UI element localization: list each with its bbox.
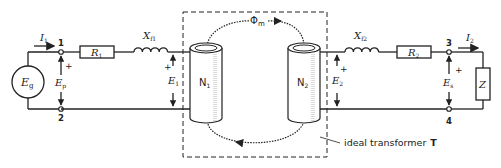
voltage-es: + Es (442, 56, 463, 105)
resistor-r2: R2 (397, 46, 431, 59)
svg-text:E2: E2 (331, 75, 343, 87)
circuit-svg: Eg I1 1 2 + Ep R1 Xf1 + E1 (0, 0, 501, 168)
resistor-r1: R1 (80, 46, 114, 59)
load-z: Z (476, 68, 490, 100)
ideal-transformer-caption: ideal transformerT (320, 137, 437, 148)
terminal-1 (59, 50, 64, 55)
terminal-4 (447, 107, 452, 112)
svg-text:Es: Es (442, 77, 453, 89)
svg-text:+: + (164, 62, 172, 72)
svg-text:1: 1 (58, 38, 64, 48)
voltage-e1: + E1 (164, 55, 179, 106)
svg-text:R1: R1 (90, 47, 102, 59)
terminal-3 (447, 50, 452, 55)
svg-text:Xf1: Xf1 (142, 30, 156, 42)
current-i2: I2 (458, 32, 478, 48)
svg-text:Z: Z (478, 79, 487, 90)
svg-text:Ep: Ep (54, 77, 66, 90)
current-i1: I1 (34, 32, 54, 46)
svg-text:I2: I2 (465, 32, 474, 44)
winding-n2: N2 (288, 43, 320, 123)
svg-text:+: + (455, 65, 463, 75)
svg-text:4: 4 (446, 116, 452, 126)
svg-text:2: 2 (58, 113, 64, 123)
inductor-icon (134, 48, 168, 52)
svg-text:+: + (340, 64, 348, 74)
svg-text:R2: R2 (407, 47, 420, 59)
svg-text:3: 3 (446, 38, 452, 48)
svg-text:Xf2: Xf2 (353, 30, 367, 42)
svg-text:I1: I1 (39, 32, 48, 44)
svg-text:ideal transformerT: ideal transformerT (344, 137, 437, 148)
voltage-ep: + Ep (54, 56, 73, 105)
svg-text:Φm: Φm (250, 15, 265, 28)
inductor-xl1: Xf1 (134, 30, 168, 52)
svg-text:E1: E1 (167, 75, 179, 87)
source-eg: Eg (12, 52, 61, 109)
transformer-diagram: Eg I1 1 2 + Ep R1 Xf1 + E1 (0, 0, 501, 168)
inductor-xl2: Xf2 (345, 30, 379, 52)
winding-n1: N1 (190, 43, 222, 123)
svg-text:+: + (65, 61, 73, 71)
voltage-e2: + E2 (331, 55, 348, 106)
svg-text:Eg: Eg (20, 76, 34, 90)
inductor-icon (345, 48, 379, 52)
